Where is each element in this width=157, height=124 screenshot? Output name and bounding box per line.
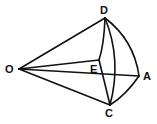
- label-A: A: [143, 70, 151, 82]
- edge-O-A: [19, 69, 139, 76]
- label-D: D: [100, 4, 108, 16]
- label-E: E: [90, 63, 97, 75]
- label-O: O: [5, 63, 14, 75]
- arc-D-E: [99, 18, 105, 60]
- arc-D-A: [105, 18, 139, 76]
- diagram-canvas: O D E A C: [0, 0, 157, 124]
- label-C: C: [105, 107, 113, 119]
- arc-E-C: [99, 60, 110, 105]
